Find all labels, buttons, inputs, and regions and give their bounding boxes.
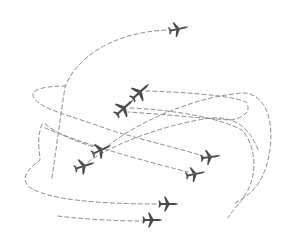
flight-path-1 — [52, 30, 168, 178]
airplane-icon — [89, 138, 115, 161]
flight-path-9 — [58, 216, 144, 221]
airplane-icon — [184, 164, 207, 183]
airplane-icon — [167, 19, 190, 38]
airplane-icon — [199, 148, 221, 166]
flight-path-7 — [88, 118, 258, 162]
flight-path-6 — [108, 93, 271, 203]
airplane-icon — [72, 155, 97, 177]
flight-paths-illustration — [0, 0, 297, 248]
airplane-icon — [142, 213, 162, 228]
flight-path-3 — [45, 128, 188, 172]
flight-path-2 — [33, 86, 203, 156]
flight-path-4 — [128, 91, 248, 120]
illustration-svg — [0, 0, 297, 248]
flight-paths — [25, 30, 271, 221]
flight-path-5 — [130, 108, 254, 218]
airplane-icon — [158, 197, 178, 212]
airplanes — [72, 19, 221, 227]
